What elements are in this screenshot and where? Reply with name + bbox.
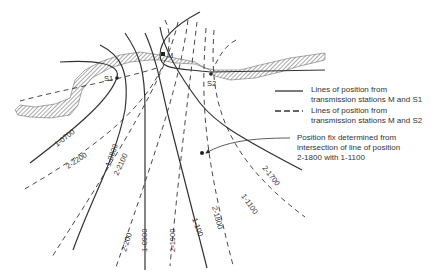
legend-dashed-label: Lines of position from transmission stat… — [311, 106, 422, 126]
svg-text:2-1800: 2-1800 — [210, 205, 225, 230]
svg-text:2-1700: 2-1700 — [260, 164, 281, 188]
svg-text:2-2200: 2-2200 — [64, 150, 88, 170]
svg-text:S1: S1 — [104, 74, 113, 83]
legend-solid-label: Lines of position from transmission stat… — [311, 85, 422, 105]
svg-text:1-0700: 1-0700 — [53, 127, 77, 148]
svg-text:M: M — [167, 51, 173, 60]
svg-text:2-200: 2-200 — [119, 232, 133, 253]
position-fix-annotation: Position fix determined from intersectio… — [297, 133, 400, 163]
svg-text:S2: S2 — [207, 79, 216, 88]
svg-text:1-1100: 1-1100 — [239, 192, 259, 216]
svg-text:2-1900: 2-1900 — [168, 229, 177, 252]
annotation-arrow — [206, 138, 290, 153]
solid-lines-m-s1 — [30, 12, 325, 270]
line-labels: 1-0700 2-2200 1-0800 2-2100 2-200 1-0900… — [53, 127, 282, 253]
svg-text:1-0900: 1-0900 — [140, 229, 149, 252]
station-s1: S1 — [104, 74, 119, 83]
svg-text:1-100: 1-100 — [190, 217, 205, 238]
position-fix-point — [200, 151, 204, 155]
